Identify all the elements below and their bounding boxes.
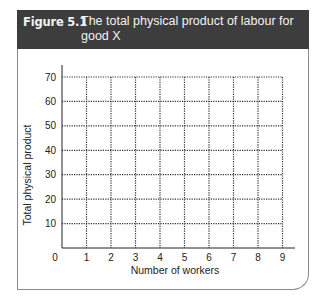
y-tick-label: 20 <box>45 194 57 205</box>
x-tick-label: 8 <box>255 252 261 263</box>
x-tick-label: 7 <box>231 252 237 263</box>
origin-label: 0 <box>52 252 58 263</box>
x-tick-label: 6 <box>206 252 212 263</box>
y-tick-label: 10 <box>45 218 57 229</box>
x-tick-label: 5 <box>182 252 188 263</box>
y-tick-label: 60 <box>45 96 57 107</box>
x-axis-label: Number of workers <box>131 264 220 276</box>
x-tick-label: 4 <box>157 252 163 263</box>
y-axis-label: Total physical product <box>21 125 33 226</box>
chart-plot-area: 102030405060701234567890 <box>0 0 323 305</box>
y-tick-label: 50 <box>45 120 57 131</box>
x-tick-label: 3 <box>133 252 139 263</box>
x-tick-label: 9 <box>280 252 286 263</box>
y-tick-label: 40 <box>45 145 57 156</box>
x-tick-label: 2 <box>108 252 114 263</box>
x-tick-label: 1 <box>84 252 90 263</box>
y-tick-label: 30 <box>45 169 57 180</box>
y-tick-label: 70 <box>45 72 57 83</box>
